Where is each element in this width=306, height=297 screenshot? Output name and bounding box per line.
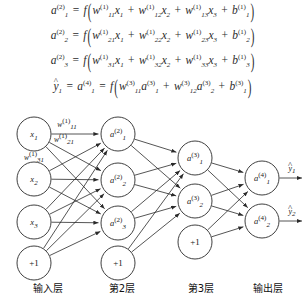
network-diagram: x1x2x3+1输入层a(2)1a(2)2a(2)3+1第2层a(3)1a(3)…: [0, 108, 306, 297]
output-label-yhat1: ^y1: [288, 164, 295, 173]
node-a1-4: [245, 161, 279, 195]
node-a1-2: [101, 117, 135, 151]
node-x2: [17, 162, 51, 196]
node-a3-2: [101, 206, 135, 240]
connection-edge: [131, 171, 180, 212]
layer-label-output-layer: 输出层: [253, 280, 283, 295]
connection-edge: [50, 189, 101, 214]
node-x1: [17, 117, 51, 151]
equation-block: a(2)1 = f(w(1)11x1 + w(1)12x2 + w(1)13x3…: [0, 0, 306, 110]
node-a2-4: [245, 204, 279, 238]
node-a1-3: [178, 141, 212, 175]
connection-edge: [212, 227, 244, 237]
output-label-yhat2: ^y2: [288, 207, 295, 216]
connection-edge: [135, 139, 177, 152]
edge-group: [44, 134, 248, 255]
connection-edge: [212, 163, 244, 172]
network-graphics: [0, 108, 306, 297]
connection-edge: [212, 184, 244, 195]
equation-a1-layer2: a(2)1 = f(w(1)11x1 + w(1)12x2 + w(1)13x3…: [0, 4, 306, 16]
weight-label-w31: w(1)31: [24, 153, 44, 162]
equation-yhat1: ^y1 = a(4)1 = f(w(3)11a(3)1 + w(3)12a(3)…: [0, 80, 306, 92]
node-a2-3: [178, 184, 212, 218]
connection-edge: [135, 185, 176, 196]
layer-label-layer-2: 第2层: [109, 280, 135, 295]
layer-label-input-layer: 输入层: [33, 280, 63, 295]
connection-edge: [132, 213, 180, 252]
connection-edge: [135, 163, 176, 175]
connection-edge: [208, 191, 248, 229]
node-a2-2: [101, 163, 135, 197]
node-bias-input: [17, 246, 51, 280]
equation-a3-layer2: a(2)3 = f(w(1)31x1 + w(1)32x2 + w(1)33x3…: [0, 54, 306, 66]
connection-edge: [131, 145, 180, 188]
node-bias-layer3: [178, 225, 212, 259]
connection-edge: [208, 170, 248, 208]
connection-edge: [44, 150, 108, 248]
node-x3: [17, 205, 51, 239]
equation-a2-layer2: a(2)2 = f(w(1)21x1 + w(1)22x2 + w(1)23x3…: [0, 29, 306, 41]
layer-label-layer-3: 第3层: [188, 280, 214, 295]
neural-network-figure: a(2)1 = f(w(1)11x1 + w(1)12x2 + w(1)13x3…: [0, 0, 306, 297]
node-bias-layer2: [101, 246, 135, 280]
connection-edge: [50, 231, 101, 255]
weight-label-w11: w(1)11: [57, 120, 77, 129]
weight-label-w21: w(1)21: [54, 135, 74, 144]
